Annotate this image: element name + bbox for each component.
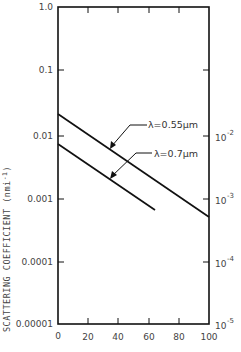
right-tick-1e-2: 10 -2: [215, 129, 234, 143]
y-tick-0.1: 0.1: [39, 65, 53, 75]
y-tick-0.00001: 0.00001: [16, 319, 53, 329]
scattering-chart: λ=0.55μm λ=0.7μm 1.0 0.1 0.01 0.001 0.00…: [0, 0, 241, 352]
svg-text:10: 10: [215, 321, 227, 331]
annotation-arrow-0.7: [110, 153, 152, 179]
x-tick-20: 20: [82, 332, 94, 342]
svg-text:10: 10: [215, 133, 227, 143]
x-tick-40: 40: [112, 332, 124, 342]
top-ticks: [88, 7, 179, 13]
right-tick-1e-4: 10 -4: [215, 255, 235, 269]
x-tick-60: 60: [143, 332, 155, 342]
x-tick-80: 80: [173, 332, 185, 342]
y-tick-0.01: 0.01: [33, 131, 53, 141]
left-ticks: [58, 70, 64, 262]
line-lambda-0.7: [58, 144, 155, 210]
right-tick-1e-5: 10 -5: [215, 317, 234, 331]
annotation-label-0.55: λ=0.55μm: [148, 119, 198, 130]
y-tick-0.001: 0.001: [27, 194, 53, 204]
annotation-label-0.7: λ=0.7μm: [154, 148, 198, 159]
x-tick-0: 0: [55, 331, 61, 341]
svg-text:-5: -5: [227, 317, 234, 325]
y-tick-1: 1.0: [39, 2, 54, 12]
annotation-arrow-0.55: [110, 125, 147, 149]
bottom-ticks: [88, 318, 179, 324]
svg-text:10: 10: [215, 259, 227, 269]
x-tick-100: 100: [200, 332, 217, 342]
svg-text:-3: -3: [227, 192, 234, 200]
y-tick-0.0001: 0.0001: [22, 257, 54, 267]
svg-text:10: 10: [215, 196, 227, 206]
svg-text:SCATTERING COEFFICIENT (nmi-1): SCATTERING COEFFICIENT (nmi-1): [1, 166, 12, 332]
right-tick-1e-3: 10 -3: [215, 192, 234, 206]
svg-text:-2: -2: [227, 129, 234, 137]
svg-text:-4: -4: [227, 255, 235, 263]
y-axis-label: SCATTERING COEFFICIENT (nmi-1): [1, 166, 12, 332]
right-ticks: [203, 70, 209, 262]
